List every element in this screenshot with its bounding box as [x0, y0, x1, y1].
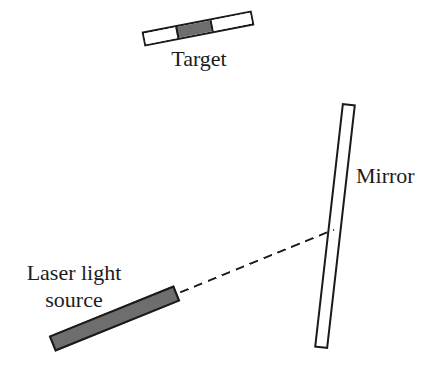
laser-source-label-line1: Laser light	[8, 259, 140, 286]
target-label: Target	[140, 46, 258, 72]
diagram-canvas: Target Mirror Laser light source	[0, 0, 443, 388]
target-segment-right	[212, 13, 252, 31]
mirror-bar	[314, 103, 356, 349]
laser-beam-dashed-line	[180, 229, 334, 294]
laser-source-label: Laser light source	[8, 259, 140, 313]
target-segment-center-filled	[176, 20, 214, 38]
target-bar	[142, 10, 255, 46]
mirror-label: Mirror	[356, 163, 415, 189]
target-segment-left	[144, 27, 178, 44]
